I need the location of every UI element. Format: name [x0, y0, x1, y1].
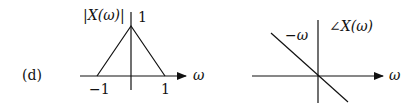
phase-line: [271, 33, 348, 102]
figure-label: (d): [22, 67, 42, 83]
phase-plot: ∠X(ω) −ω ω: [252, 18, 401, 103]
magnitude-plot: |X(ω)| 1 ω −1 1: [80, 7, 205, 97]
diagram-canvas: (d) |X(ω)| 1 ω −1 1 ∠X(ω) −ω ω: [0, 0, 419, 107]
phase-ylabel: ∠X(ω): [329, 18, 373, 34]
magnitude-xlabel: ω: [193, 67, 205, 83]
xtick-1: 1: [161, 81, 170, 97]
magnitude-ylabel: |X(ω)|: [83, 7, 125, 24]
phase-line-label: −ω: [285, 27, 309, 43]
peak-label: 1: [138, 9, 147, 25]
phase-xlabel: ω: [389, 67, 401, 83]
xtick-neg1: −1: [89, 81, 110, 97]
